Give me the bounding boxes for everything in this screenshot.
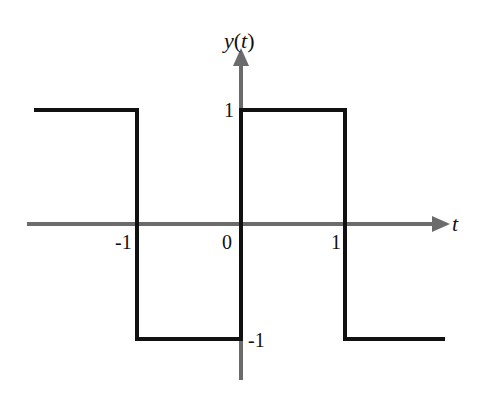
x-axis-arrow-icon: [432, 216, 450, 232]
y-axis-label: y(t): [222, 28, 255, 53]
x-tick-neg1: -1: [115, 231, 132, 253]
signal-plot: y(t) t -1 0 1 1 -1: [0, 0, 486, 395]
x-tick-0: 0: [222, 231, 232, 253]
x-axis: [27, 216, 450, 232]
x-axis-label: t: [452, 211, 459, 236]
y-tick-1: 1: [224, 99, 234, 121]
x-tick-1: 1: [331, 231, 341, 253]
y-tick-neg1: -1: [248, 329, 265, 351]
